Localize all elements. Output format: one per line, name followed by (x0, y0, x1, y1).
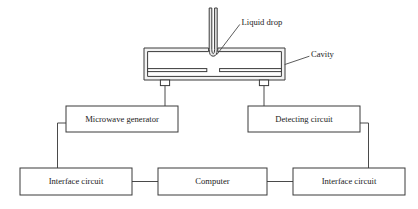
connector-detecting-circuit-to-interface-right (360, 123, 369, 168)
cavity-inner-floor (148, 69, 282, 72)
block-microwave-generator[interactable]: Microwave generator (66, 106, 178, 132)
callout-label-liquid-drop: Liquid drop (242, 17, 283, 27)
cavity-leader-line (285, 56, 310, 64)
block-interface-circuit-left[interactable]: Interface circuit (20, 168, 132, 195)
diagram-canvas: Microwave generator Detecting circuit In… (0, 0, 418, 209)
block-label-interface-circuit-right: Interface circuit (322, 176, 377, 186)
liquid-drop-nozzle (209, 8, 217, 56)
cavity-port-left (160, 80, 169, 86)
connector-microwave-generator-to-interface-left (58, 123, 67, 168)
block-label-microwave-generator: Microwave generator (85, 114, 159, 124)
block-detecting-circuit[interactable]: Detecting circuit (248, 106, 360, 132)
system-block-diagram: Microwave generator Detecting circuit In… (0, 0, 418, 209)
block-label-interface-circuit-left: Interface circuit (49, 176, 104, 186)
callout-label-cavity: Cavity (311, 49, 335, 59)
block-interface-circuit-right[interactable]: Interface circuit (293, 168, 405, 195)
block-label-detecting-circuit: Detecting circuit (275, 114, 333, 124)
cavity-port-right (259, 80, 268, 86)
block-computer[interactable]: Computer (158, 168, 267, 195)
block-label-computer: Computer (195, 176, 230, 186)
